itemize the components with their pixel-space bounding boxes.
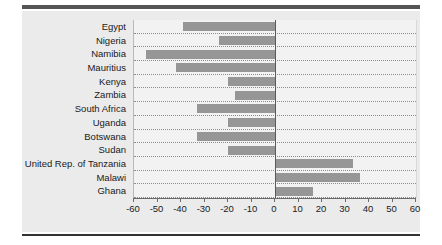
x-axis-tick (368, 198, 369, 202)
bar[interactable] (197, 104, 275, 113)
x-axis-tick (251, 198, 252, 202)
x-axis-tick (392, 198, 393, 202)
category-label: Ghana (22, 184, 130, 198)
bar[interactable] (219, 36, 275, 45)
category-label: Sudan (22, 143, 130, 157)
x-axis-tick (204, 198, 205, 202)
category-label: United Rep. of Tanzania (22, 157, 130, 171)
zero-reference-line (275, 20, 276, 198)
x-axis-tick (274, 198, 275, 202)
bar[interactable] (176, 63, 275, 72)
x-axis-tick (415, 198, 416, 202)
bar[interactable] (275, 159, 353, 168)
category-label: Zambia (22, 88, 130, 102)
top-rule-divider (22, 5, 420, 9)
category-label: Namibia (22, 47, 130, 61)
bar[interactable] (235, 91, 275, 100)
x-axis-tick (227, 198, 228, 202)
x-axis-tick (298, 198, 299, 202)
category-label: Uganda (22, 116, 130, 130)
category-label: Mauritius (22, 61, 130, 75)
bottom-rule-divider (22, 234, 420, 236)
category-label: Malawi (22, 171, 130, 185)
bar[interactable] (228, 118, 275, 127)
bar[interactable] (197, 132, 275, 141)
bar[interactable] (183, 22, 275, 31)
x-axis-tick (157, 198, 158, 202)
bar[interactable] (228, 146, 275, 155)
chart-figure: EgyptNigeriaNamibiaMauritiusKenyaZambiaS… (0, 0, 442, 245)
x-axis-tick (133, 198, 134, 202)
bar[interactable] (146, 50, 275, 59)
category-label: South Africa (22, 102, 130, 116)
bar[interactable] (228, 77, 275, 86)
x-axis-tick (321, 198, 322, 202)
bar[interactable] (275, 187, 313, 196)
category-label: Nigeria (22, 34, 130, 48)
x-axis-tick (345, 198, 346, 202)
x-axis-tick-label: 60 (400, 203, 430, 214)
category-axis-labels: EgyptNigeriaNamibiaMauritiusKenyaZambiaS… (22, 20, 130, 198)
category-label: Kenya (22, 75, 130, 89)
plot-area (133, 20, 417, 198)
category-label: Botswana (22, 130, 130, 144)
bar[interactable] (275, 173, 360, 182)
x-axis-tick (180, 198, 181, 202)
category-label: Egypt (22, 20, 130, 34)
